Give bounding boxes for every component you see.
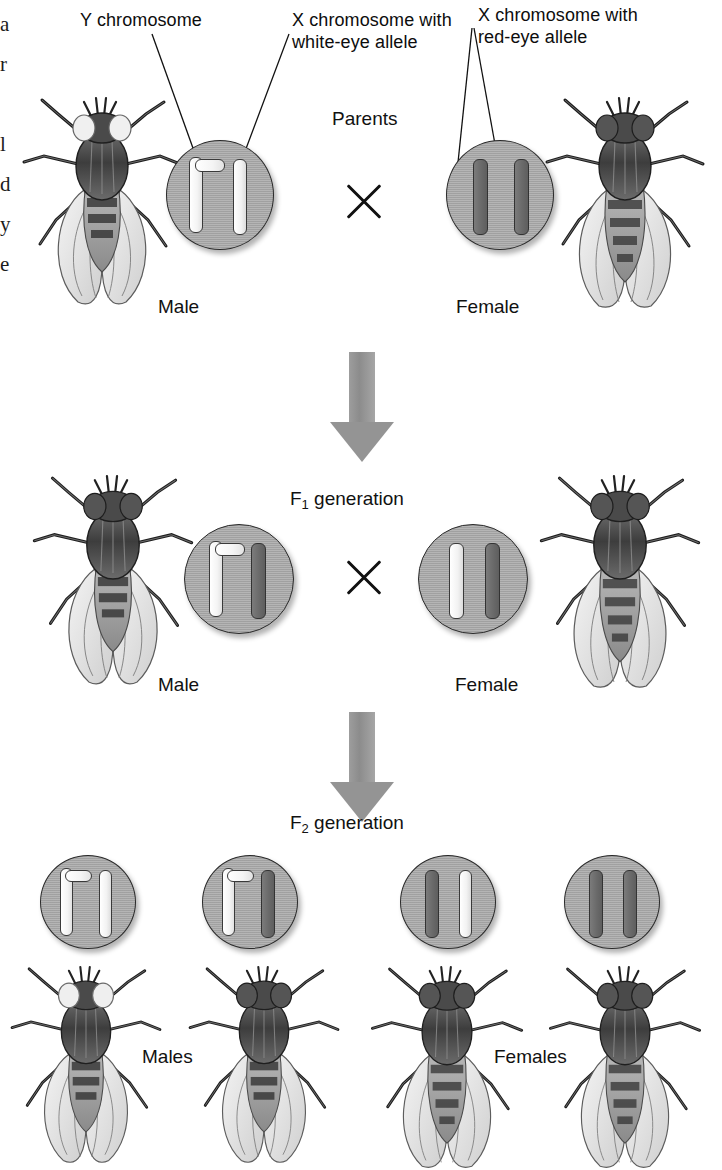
arrow-parents-to-f1 bbox=[330, 352, 394, 462]
chromosome-cell-f1-male bbox=[184, 524, 294, 634]
generation-label-f1-rest: generation bbox=[309, 488, 404, 509]
chromosome-X-dark bbox=[514, 159, 529, 235]
callout-x-white-allele: X chromosome with white-eye allele bbox=[292, 10, 452, 54]
chromosome-X-white bbox=[459, 870, 472, 938]
edge-line: a bbox=[0, 4, 22, 44]
chromosome-X-dark bbox=[261, 870, 275, 938]
chromosome-X-dark bbox=[623, 870, 637, 938]
chromosome-cell-f1-female bbox=[418, 524, 528, 634]
chromosome-Y-white bbox=[209, 543, 241, 617]
chromosome-Y-white bbox=[60, 870, 90, 936]
chromosome-cell-parent-male bbox=[166, 140, 274, 250]
generation-label-parents: Parents bbox=[332, 108, 397, 130]
fly-f2-male-2 bbox=[184, 948, 344, 1168]
group-label-males: Males bbox=[142, 1046, 193, 1068]
sex-label-f1-male: Male bbox=[158, 674, 199, 696]
chromosome-cell-f2-female-1 bbox=[400, 855, 496, 949]
cross-symbol-parents bbox=[341, 178, 387, 224]
generation-label-f1-letter: F bbox=[290, 488, 302, 509]
fly-parent-female bbox=[540, 78, 710, 310]
group-label-females: Females bbox=[494, 1046, 567, 1068]
chromosome-X-white bbox=[449, 543, 464, 619]
chromosome-cell-f2-male-2 bbox=[202, 855, 298, 949]
generation-label-f2-letter: F bbox=[290, 812, 302, 833]
chromosome-cell-f2-female-2 bbox=[564, 855, 660, 949]
chromosome-X-dark bbox=[473, 159, 488, 235]
generation-label-f2-rest: generation bbox=[309, 812, 404, 833]
chromosome-cell-parent-female bbox=[446, 140, 554, 250]
callout-y-chromosome: Y chromosome bbox=[80, 10, 202, 32]
chromosome-Y-white bbox=[222, 870, 252, 936]
chromosome-X-white bbox=[99, 870, 112, 938]
chromosome-Y-white bbox=[189, 159, 221, 233]
arrow-f1-to-f2 bbox=[330, 712, 394, 822]
generation-label-f2-subscript: 2 bbox=[302, 821, 309, 836]
fly-f2-female-2 bbox=[544, 948, 706, 1170]
sex-label-f1-female: Female bbox=[455, 674, 518, 696]
chromosome-X-white bbox=[233, 159, 247, 235]
fly-f1-female bbox=[534, 456, 706, 690]
chromosome-X-dark bbox=[425, 870, 439, 938]
cross-symbol-f1 bbox=[341, 554, 387, 600]
sex-label-parent-female: Female bbox=[456, 296, 519, 318]
generation-label-f2: F2 generation bbox=[290, 812, 404, 834]
fly-parent-male bbox=[18, 78, 186, 310]
generation-label-f1-subscript: 1 bbox=[302, 497, 309, 512]
chromosome-X-dark bbox=[485, 543, 500, 619]
fly-f1-male bbox=[28, 456, 198, 690]
chromosome-X-dark bbox=[589, 870, 603, 938]
sex-label-parent-male: Male bbox=[158, 296, 199, 318]
callout-x-red-allele: X chromosome with red-eye allele bbox=[478, 5, 638, 49]
generation-label-f1: F1 generation bbox=[290, 488, 404, 510]
chromosome-X-dark bbox=[251, 543, 266, 619]
chromosome-cell-f2-male-1 bbox=[40, 855, 136, 949]
